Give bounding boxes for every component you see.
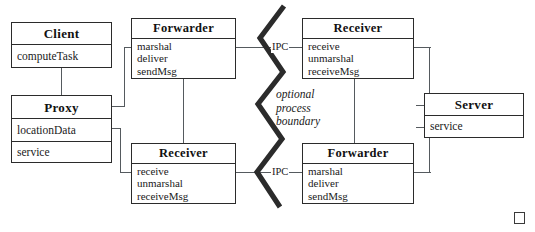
class-title-forwarder-right: Forwarder — [303, 144, 413, 164]
connector-forwarder-receiver-left — [183, 79, 184, 143]
class-title-client: Client — [12, 23, 111, 45]
optional-process-boundary-note: optional process boundary — [276, 88, 320, 129]
boundary-note-line-2: process — [276, 102, 320, 116]
attribute-deliver: deliver — [308, 177, 413, 189]
class-box-receiver-right: Receiver receive unmarshal receiveMsg — [302, 18, 414, 79]
attribute-compute-task: computeTask — [17, 50, 111, 63]
class-attributes-receiver-left: receive unmarshal receiveMsg — [132, 164, 235, 203]
attribute-marshal: marshal — [308, 165, 413, 177]
class-attributes-receiver-right: receive unmarshal receiveMsg — [303, 39, 413, 78]
attribute-send-msg: sendMsg — [137, 65, 235, 77]
class-attributes-proxy-service: service — [12, 141, 111, 163]
attribute-receive-msg: receiveMsg — [137, 190, 235, 202]
connector-receiver-forwarder-right — [354, 79, 355, 143]
attribute-service: service — [430, 120, 523, 133]
class-attributes-forwarder-left: marshal deliver sendMsg — [132, 39, 235, 78]
attribute-receive-msg: receiveMsg — [308, 65, 413, 77]
class-box-proxy: Proxy locationData service — [11, 95, 112, 163]
attribute-unmarshal: unmarshal — [308, 52, 413, 64]
attribute-receive: receive — [137, 165, 235, 177]
square-marker-icon — [514, 212, 525, 224]
boundary-note-line-3: boundary — [276, 115, 320, 129]
connector-ipc-bottom — [236, 172, 302, 173]
connector-client-proxy — [61, 68, 62, 95]
attribute-unmarshal: unmarshal — [137, 177, 235, 189]
attribute-service: service — [17, 146, 111, 159]
class-box-client: Client computeTask — [11, 22, 112, 68]
ipc-label-top: IPC — [271, 42, 289, 53]
class-attributes-server: service — [425, 116, 523, 137]
connector-proxy-forwarder-v — [124, 47, 125, 107]
class-attributes-client: computeTask — [12, 45, 111, 67]
class-box-server: Server service — [424, 93, 524, 138]
class-box-forwarder-left: Forwarder marshal deliver sendMsg — [131, 18, 236, 79]
diagram-canvas: IPC IPC optional process boundary Client… — [0, 0, 535, 232]
ipc-label-bottom: IPC — [271, 167, 289, 178]
class-title-server: Server — [425, 94, 523, 116]
attribute-location-data: locationData — [17, 124, 111, 137]
attribute-receive: receive — [308, 40, 413, 52]
attribute-send-msg: sendMsg — [308, 190, 413, 202]
class-title-forwarder-left: Forwarder — [132, 19, 235, 39]
attribute-marshal: marshal — [137, 40, 235, 52]
connector-proxy-receiver-v — [120, 128, 121, 173]
class-title-receiver-right: Receiver — [303, 19, 413, 39]
class-box-forwarder-right: Forwarder marshal deliver sendMsg — [302, 143, 414, 204]
class-attributes-proxy-data: locationData — [12, 119, 111, 141]
class-title-proxy: Proxy — [12, 96, 111, 119]
boundary-note-line-1: optional — [276, 88, 320, 102]
class-title-receiver-left: Receiver — [132, 144, 235, 164]
class-box-receiver-left: Receiver receive unmarshal receiveMsg — [131, 143, 236, 204]
connector-ipc-top — [236, 47, 302, 48]
class-attributes-forwarder-right: marshal deliver sendMsg — [303, 164, 413, 203]
attribute-deliver: deliver — [137, 52, 235, 64]
